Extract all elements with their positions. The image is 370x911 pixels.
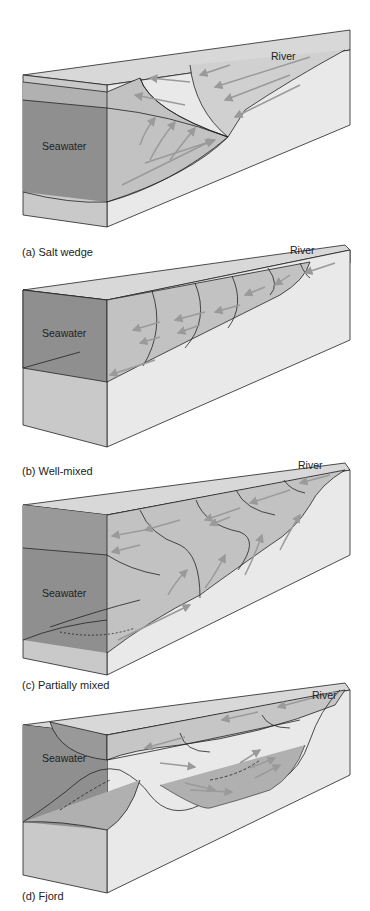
estuary-diagram (0, 0, 370, 911)
panel-partially-mixed (23, 463, 350, 675)
panel-salt-wedge (23, 30, 350, 227)
panel-fjord (23, 683, 350, 893)
seawater-label-c: Seawater (42, 587, 86, 599)
caption-d: (d) Fjord (22, 890, 64, 902)
river-label-d: River (312, 689, 337, 701)
river-label-c: River (298, 459, 323, 471)
seawater-label-b: Seawater (42, 327, 86, 339)
river-label-b: River (290, 244, 315, 256)
caption-a: (a) Salt wedge (22, 246, 93, 258)
panel-well-mixed (23, 245, 350, 447)
caption-b: (b) Well-mixed (22, 465, 93, 477)
seawater-label-d: Seawater (42, 752, 86, 764)
river-label-a: River (271, 50, 296, 62)
caption-c: (c) Partially mixed (22, 679, 109, 691)
seawater-label-a: Seawater (42, 140, 86, 152)
